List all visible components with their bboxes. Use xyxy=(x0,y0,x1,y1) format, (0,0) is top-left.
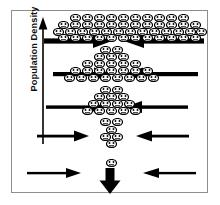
thick-down-arrow-icon xyxy=(99,168,121,194)
inward-arrow-right-1 xyxy=(124,33,204,49)
inward-arrow-left-2 xyxy=(53,66,112,82)
pressure-band-3 xyxy=(46,99,188,115)
inward-arrow-right-5 xyxy=(143,165,196,181)
pressure-band-1 xyxy=(44,33,204,49)
inward-arrow-left-4 xyxy=(37,128,89,144)
inward-arrow-right-2 xyxy=(124,66,198,82)
inward-arrow-left-5 xyxy=(27,165,81,181)
population-density-figure: Population Density xyxy=(0,0,220,205)
pressure-band-4 xyxy=(37,128,189,144)
inward-arrow-left-1 xyxy=(44,33,112,49)
figure-title: Population Density selection funnel diag… xyxy=(0,0,1,1)
inward-arrow-right-3 xyxy=(124,99,188,115)
pressure-band-2 xyxy=(53,66,198,82)
inward-arrow-right-4 xyxy=(136,128,189,144)
inward-arrow-left-3 xyxy=(46,99,106,115)
